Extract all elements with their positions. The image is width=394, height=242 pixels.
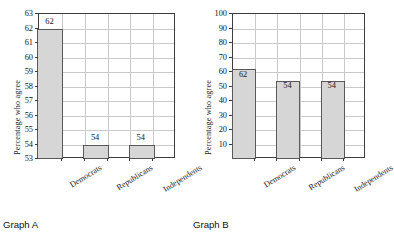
x-axis-tick-mark: [321, 158, 322, 161]
y-axis-tick-mark: [229, 144, 232, 145]
bar-democrats: [232, 69, 256, 159]
y-axis-tick-mark: [35, 42, 38, 43]
y-axis-tick-label: 53: [11, 154, 33, 163]
x-axis-category-label: Republicans: [115, 163, 154, 192]
x-axis-category-label: Independents: [352, 163, 394, 194]
y-axis-tick-label: 40: [201, 96, 227, 105]
y-axis-tick-label: 56: [11, 110, 33, 119]
y-axis-tick-label: 58: [11, 81, 33, 90]
y-axis-tick-label: 80: [201, 38, 227, 47]
y-axis-tick-mark: [35, 100, 38, 101]
y-axis-tick-label: 63: [11, 9, 33, 18]
y-axis-tick-label: 60: [201, 67, 227, 76]
bar-value-label: 62: [227, 70, 259, 79]
bar-value-label: 54: [79, 133, 111, 142]
x-axis-category-label: Democrats: [69, 163, 104, 189]
x-axis-tick-mark: [107, 158, 108, 161]
y-axis-tick-label: 61: [11, 38, 33, 47]
x-axis-tick-mark: [129, 158, 130, 161]
y-axis-tick-label: 100: [201, 9, 227, 18]
bar-value-label: 62: [33, 17, 65, 26]
bar-value-label: 54: [125, 133, 157, 142]
y-axis-tick-mark: [35, 13, 38, 14]
y-axis-tick-label: 59: [11, 67, 33, 76]
bar-independents: [129, 145, 155, 160]
x-axis-tick-mark: [61, 158, 62, 161]
y-axis-tick-label: 62: [11, 23, 33, 32]
x-axis-tick-mark: [254, 158, 255, 161]
y-axis-tick-mark: [35, 129, 38, 130]
bar-value-label: 54: [271, 81, 303, 90]
y-axis-tick-mark: [229, 86, 232, 87]
x-axis-tick-mark: [343, 158, 344, 161]
x-axis-tick-mark: [152, 158, 153, 161]
bar-democrats: [37, 29, 63, 160]
y-axis-tick-mark: [229, 42, 232, 43]
y-axis-tick-label: 30: [201, 110, 227, 119]
y-axis-tick-label: 57: [11, 96, 33, 105]
y-axis-tick-mark: [35, 86, 38, 87]
y-axis-tick-label: 90: [201, 23, 227, 32]
x-axis-category-label: Democrats: [262, 163, 297, 189]
graph-b-caption: Graph B: [193, 219, 229, 230]
y-axis-tick-mark: [35, 28, 38, 29]
y-axis-tick-mark: [35, 158, 38, 159]
y-axis-tick-mark: [229, 100, 232, 101]
y-axis-tick-mark: [229, 13, 232, 14]
graph-b: Percentage who agree Graph B 10203040506…: [190, 0, 377, 242]
y-axis-tick-label: 70: [201, 52, 227, 61]
x-axis-tick-mark: [84, 158, 85, 161]
y-axis-tick-mark: [35, 115, 38, 116]
y-axis-tick-mark: [35, 57, 38, 58]
bar-republicans: [83, 145, 109, 160]
y-axis-tick-label: 55: [11, 125, 33, 134]
y-axis-tick-mark: [35, 71, 38, 72]
bar-republicans: [276, 81, 300, 159]
bar-value-label: 54: [316, 81, 348, 90]
y-axis-tick-label: 20: [201, 125, 227, 134]
y-axis-tick-mark: [35, 144, 38, 145]
bar-independents: [321, 81, 345, 159]
y-axis-tick-mark: [229, 129, 232, 130]
y-axis-tick-mark: [229, 115, 232, 116]
y-axis-tick-label: 54: [11, 139, 33, 148]
y-axis-tick-label: 10: [201, 139, 227, 148]
x-axis-tick-mark: [299, 158, 300, 161]
y-axis-tick-label: 50: [201, 81, 227, 90]
x-axis-tick-mark: [276, 158, 277, 161]
x-axis-category-label: Republicans: [308, 163, 347, 192]
y-axis-tick-mark: [229, 28, 232, 29]
graph-a-caption: Graph A: [3, 219, 38, 230]
graph-a: Percentage who agree Graph A 53545556575…: [0, 0, 190, 242]
y-axis-tick-label: 60: [11, 52, 33, 61]
y-axis-tick-mark: [229, 57, 232, 58]
